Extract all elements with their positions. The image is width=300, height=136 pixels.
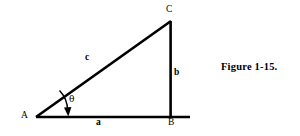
angle-theta-arrowhead	[64, 107, 71, 116]
figure-container: A B C a b c θ Figure 1-15.	[0, 0, 300, 136]
vertex-label-c: C	[166, 5, 172, 15]
side-label-b: b	[174, 68, 179, 78]
figure-caption: Figure 1-15.	[221, 61, 277, 72]
vertex-label-b: B	[168, 118, 174, 128]
triangle-side-c-hypotenuse-line	[36, 21, 171, 117]
side-label-a: a	[96, 118, 101, 128]
vertex-label-a: A	[21, 111, 28, 121]
angle-label-theta: θ	[69, 95, 74, 104]
side-label-c: c	[85, 53, 89, 63]
